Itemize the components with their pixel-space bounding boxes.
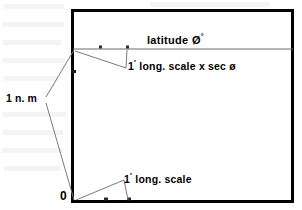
label-long-scale-text: long. scale [135,173,191,185]
label-latitude-symbol: Ø [192,34,201,46]
label-sec-scale-symbol: ø [229,60,236,72]
latitude-tick-right [126,46,129,49]
diagram-figure: latitude Ø° 1′ long. scale x sec ø 1 n. … [0,0,302,210]
left-edge-tick [71,70,76,73]
label-nautical-mile: 1 n. m [6,93,37,104]
baseline-tick-left [104,198,108,201]
leader-nautical-mile-upper [46,50,74,97]
label-latitude-degree: ° [201,33,204,40]
label-sec-scale: 1′ long. scale x sec ø [128,59,236,71]
label-sec-scale-text: long. scale x sec [139,60,226,72]
label-latitude-text: latitude [147,34,189,46]
label-latitude: latitude Ø° [147,33,204,46]
label-origin: 0 [60,190,67,202]
latitude-tick-left [99,46,102,49]
label-long-scale: 1′ long. scale [124,172,192,184]
leader-nautical-mile-lower [46,103,74,200]
